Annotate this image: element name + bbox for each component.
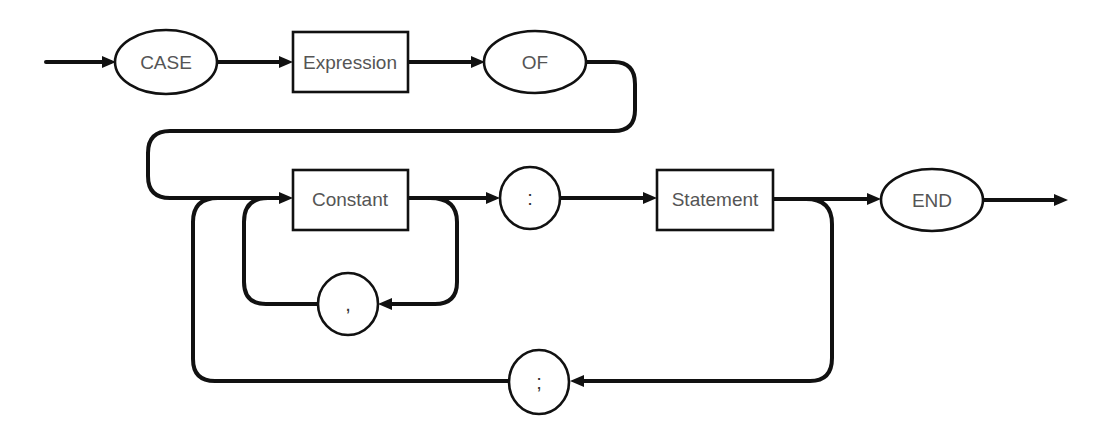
node-expression-label: Expression <box>303 52 397 73</box>
node-colon-label: : <box>527 187 533 209</box>
node-semicolon-label: ; <box>536 371 542 393</box>
node-of: OF <box>484 31 586 93</box>
arrow-right-icon <box>867 193 881 205</box>
arrow-right-icon <box>643 192 657 204</box>
node-colon: : <box>500 167 560 229</box>
node-constant: Constant <box>293 170 408 230</box>
node-comma: , <box>318 273 378 335</box>
node-statement: Statement <box>657 170 773 230</box>
node-comma-label: , <box>345 293 351 315</box>
node-case: CASE <box>115 30 217 94</box>
arrow-right-icon <box>279 192 293 204</box>
node-end: END <box>881 169 983 231</box>
node-end-label: END <box>912 190 952 211</box>
case-syntax-diagram: CASE Expression OF Constant , : Statemen… <box>0 0 1098 426</box>
node-constant-label: Constant <box>312 189 389 210</box>
node-expression: Expression <box>293 32 408 92</box>
node-statement-label: Statement <box>672 189 759 210</box>
arrow-right-icon <box>486 192 500 204</box>
node-of-label: OF <box>522 52 548 73</box>
node-case-label: CASE <box>140 52 192 73</box>
arrow-left-icon <box>378 298 392 310</box>
arrow-right-icon <box>1054 194 1068 206</box>
node-semicolon: ; <box>509 350 569 414</box>
arrow-left-icon <box>570 375 584 387</box>
arrow-right-icon <box>279 56 293 68</box>
